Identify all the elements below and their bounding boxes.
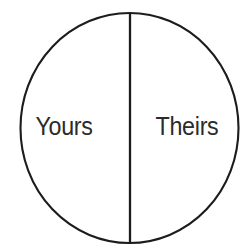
pie-slice-label-yours: Yours [4, 114, 123, 139]
pie-chart: Yours Theirs [0, 0, 250, 252]
pie-slice-label-theirs: Theirs [136, 114, 238, 139]
